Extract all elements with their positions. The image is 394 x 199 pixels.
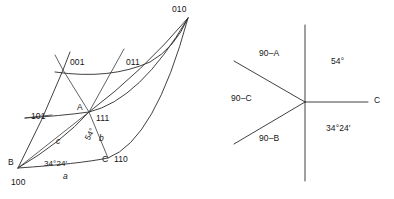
pole-label-101: 101 — [31, 112, 45, 121]
pole-label-100: 100 — [11, 178, 25, 187]
angle-label-54: 54° — [331, 57, 344, 66]
ray-label-90-minus-a: 90–A — [259, 49, 279, 58]
ray-label-c: C — [374, 96, 380, 105]
pole-label-111: 111 — [96, 114, 109, 123]
ray-label-90-minus-b: 90–B — [259, 134, 279, 143]
side-label-a: a — [63, 172, 68, 181]
pole-label-110: 110 — [114, 155, 128, 164]
side-label-c: c — [56, 137, 60, 146]
vertex-label-b: B — [8, 158, 14, 167]
right-diagram-rays — [234, 25, 368, 181]
pole-label-010: 010 — [172, 5, 186, 14]
angle-label-b-3424: 34°24′ — [44, 160, 67, 168]
angle-label-3424: 34°24′ — [326, 124, 351, 133]
pole-label-011: 011 — [126, 58, 140, 67]
side-label-b: b — [99, 134, 104, 143]
vertex-label-a: A — [77, 103, 83, 112]
ray-label-90-minus-c: 90–C — [231, 94, 252, 103]
arc-100-101-001 — [18, 52, 70, 168]
figure-svg — [0, 0, 394, 199]
vertex-label-c: C — [102, 155, 108, 164]
left-diagram-arcs — [18, 18, 188, 168]
pole-label-001: 001 — [70, 58, 84, 67]
figure-canvas: 010 001 011 101 111 110 100 A B C a b c … — [0, 0, 394, 199]
